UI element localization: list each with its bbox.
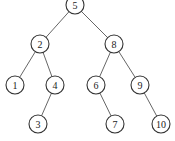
tree-node-8: 8	[105, 35, 123, 53]
edges-layer	[20, 11, 157, 116]
node-label: 9	[138, 80, 143, 91]
edge-8-6	[100, 52, 111, 77]
tree-node-4: 4	[46, 76, 64, 94]
tree-node-7: 7	[106, 115, 124, 133]
node-label: 3	[36, 119, 41, 130]
nodes-layer: 52814693710	[6, 0, 170, 133]
node-label: 4	[53, 80, 58, 91]
tree-node-5: 5	[66, 0, 84, 14]
tree-node-2: 2	[31, 35, 49, 53]
tree-node-3: 3	[29, 115, 47, 133]
node-label: 8	[112, 39, 117, 50]
tree-diagram: 52814693710	[0, 0, 175, 141]
node-label: 6	[94, 80, 99, 91]
tree-svg: 52814693710	[0, 0, 175, 141]
node-label: 1	[13, 80, 18, 91]
tree-node-6: 6	[87, 76, 105, 94]
node-label: 7	[113, 119, 118, 130]
edge-2-4	[43, 52, 52, 76]
edge-9-10	[144, 93, 156, 116]
edge-8-9	[119, 52, 135, 78]
edge-5-2	[46, 12, 69, 38]
node-label: 2	[38, 39, 43, 50]
node-label: 5	[73, 0, 78, 11]
tree-node-1: 1	[6, 76, 24, 94]
edge-5-8	[81, 11, 107, 37]
edge-2-1	[20, 52, 36, 78]
node-label: 10	[156, 119, 166, 130]
edge-6-7	[100, 93, 111, 116]
edge-4-3	[42, 93, 52, 115]
tree-node-10: 10	[152, 115, 170, 133]
tree-node-9: 9	[131, 76, 149, 94]
